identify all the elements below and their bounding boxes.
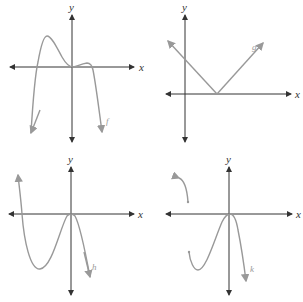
panel-k: y x k <box>166 153 301 295</box>
panel-f: y x f <box>10 1 144 142</box>
curve-h-right-arrow <box>84 252 90 277</box>
curve-k-upper-arc <box>179 178 188 202</box>
function-label-h: h <box>92 262 97 272</box>
curve-k-upper-endpoint <box>187 201 189 203</box>
x-axis-label: x <box>137 208 143 220</box>
curve-g-left-arm <box>168 41 217 94</box>
y-axis-label: y <box>225 153 231 165</box>
curve-k-lower-endpoint <box>188 251 190 253</box>
panel-g: y x g <box>166 1 300 142</box>
function-label-k: k <box>250 264 255 274</box>
y-axis-label: y <box>181 1 187 13</box>
x-axis-label: x <box>295 208 301 220</box>
graphs-figure: y x f y x g y x h y x <box>0 0 303 302</box>
y-axis-label: y <box>67 153 73 165</box>
x-axis-label: x <box>294 88 300 100</box>
function-label-f: f <box>106 116 110 126</box>
curve-h <box>18 175 90 277</box>
curve-f <box>31 36 102 133</box>
x-axis-label: x <box>138 61 144 73</box>
panel-h: y x h <box>9 153 143 295</box>
curve-k-lower <box>189 214 246 281</box>
y-axis-label: y <box>68 1 74 13</box>
function-label-g: g <box>252 42 257 52</box>
